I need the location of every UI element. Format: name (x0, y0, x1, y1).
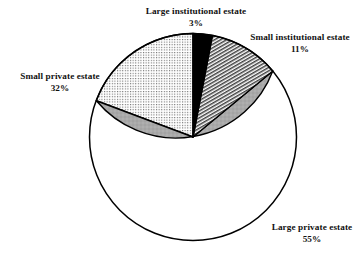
pie-label-small-institutional-percent: 11% (238, 44, 362, 56)
pie-label-large-private: Large private estate 55% (262, 222, 362, 245)
pie-label-small-private: Small private estate 32% (4, 71, 116, 94)
pie-label-large-private-name: Large private estate (272, 222, 353, 232)
pie-chart: Large institutional estate 3% Small inst… (0, 0, 362, 265)
pie-label-large-institutional-percent: 3% (130, 18, 262, 30)
pie-label-small-private-percent: 32% (4, 83, 116, 95)
pie-label-small-institutional-name: Small institutional estate (250, 32, 350, 42)
pie-label-large-institutional-name: Large institutional estate (146, 6, 247, 16)
pie-label-small-private-name: Small private estate (20, 71, 100, 81)
pie-label-large-private-percent: 55% (262, 234, 362, 246)
pie-label-large-institutional: Large institutional estate 3% (130, 6, 262, 29)
pie-label-small-institutional: Small institutional estate 11% (238, 32, 362, 55)
